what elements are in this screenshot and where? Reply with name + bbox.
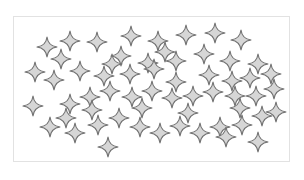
star-icon bbox=[222, 71, 242, 91]
star-icon bbox=[56, 108, 76, 128]
star-icon bbox=[183, 86, 203, 106]
star-icon bbox=[100, 81, 120, 101]
star-icon bbox=[120, 64, 140, 84]
star-icon bbox=[40, 117, 60, 137]
star-icon bbox=[266, 102, 286, 122]
star-icon bbox=[261, 64, 281, 84]
star-icon bbox=[231, 30, 251, 50]
star-icon bbox=[25, 62, 45, 82]
star-icon bbox=[252, 106, 272, 126]
star-icon bbox=[60, 94, 80, 114]
star-icon bbox=[194, 44, 214, 64]
star-icon bbox=[166, 72, 186, 92]
star-icon bbox=[264, 79, 284, 99]
star-icon bbox=[44, 70, 64, 90]
star-icon bbox=[150, 123, 170, 143]
star-icon bbox=[23, 96, 43, 116]
star-icon bbox=[109, 108, 129, 128]
star-icon bbox=[199, 65, 219, 85]
star-icon bbox=[220, 51, 240, 71]
star-icon bbox=[205, 23, 225, 43]
star-icon bbox=[87, 32, 107, 52]
star-icon bbox=[248, 132, 268, 152]
star-icon bbox=[37, 37, 57, 57]
star-icon bbox=[142, 81, 162, 101]
star-icon bbox=[82, 100, 102, 120]
star-icon bbox=[60, 31, 80, 51]
star-icon bbox=[65, 123, 85, 143]
star-icon bbox=[51, 49, 71, 69]
star-icon bbox=[121, 26, 141, 46]
star-icon bbox=[122, 87, 142, 107]
star-icon bbox=[70, 61, 90, 81]
star-icon bbox=[98, 137, 118, 157]
star-icon bbox=[190, 123, 210, 143]
star-icon bbox=[232, 115, 252, 135]
star-icon bbox=[132, 98, 152, 118]
star-field bbox=[0, 0, 304, 180]
figure-canvas bbox=[0, 0, 304, 180]
star-icon bbox=[246, 86, 266, 106]
star-icon bbox=[176, 25, 196, 45]
star-icon bbox=[203, 82, 223, 102]
star-icon bbox=[130, 117, 150, 137]
star-icon bbox=[80, 87, 100, 107]
star-icon bbox=[162, 88, 182, 108]
star-icon bbox=[88, 115, 108, 135]
